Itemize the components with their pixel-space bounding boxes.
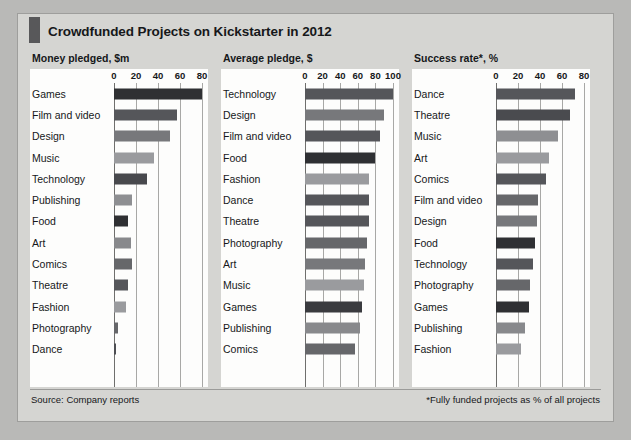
chart-row: Publishing <box>412 317 592 338</box>
category-label: Film and video <box>414 194 482 206</box>
category-label: Dance <box>32 343 62 355</box>
x-axis-tick-label: 80 <box>370 70 381 81</box>
chart-row: Dance <box>30 339 210 360</box>
category-label: Comics <box>223 343 258 355</box>
x-axis-tick-label: 80 <box>197 70 208 81</box>
chart-row: Technology <box>30 168 210 189</box>
category-label: Theatre <box>414 109 450 121</box>
category-label: Publishing <box>414 322 462 334</box>
category-label: Comics <box>414 173 449 185</box>
bar <box>305 322 360 333</box>
bar <box>114 131 170 142</box>
chart-row: Music <box>221 275 401 296</box>
category-label: Art <box>414 152 427 164</box>
chart-panels: Money pledged, $m 020406080GamesFilm and… <box>18 52 613 387</box>
x-axis-tick-label: 80 <box>579 70 590 81</box>
bar <box>305 173 369 184</box>
chart-row: Games <box>30 83 210 104</box>
x-axis-tick-label: 20 <box>317 70 328 81</box>
x-axis-tick-label: 0 <box>493 70 498 81</box>
bar <box>114 259 132 270</box>
category-label: Technology <box>32 173 85 185</box>
category-label: Comics <box>32 258 67 270</box>
bar <box>114 344 116 355</box>
chart-row: Comics <box>30 253 210 274</box>
category-label: Dance <box>414 88 444 100</box>
bar <box>114 280 128 291</box>
chart-row: Games <box>221 296 401 317</box>
bar <box>496 322 525 333</box>
source-note: Source: Company reports <box>31 394 139 405</box>
chart-row: Publishing <box>30 190 210 211</box>
bar <box>305 109 384 120</box>
category-label: Film and video <box>223 130 291 142</box>
chart-row: Comics <box>412 168 592 189</box>
category-label: Technology <box>223 88 276 100</box>
category-label: Film and video <box>32 109 100 121</box>
chart-row: Film and video <box>221 126 401 147</box>
bar <box>114 237 131 248</box>
chart-row: Theatre <box>30 275 210 296</box>
panel-title: Average pledge, $ <box>223 52 312 64</box>
chart-row: Music <box>30 147 210 168</box>
panel-title: Success rate*, % <box>414 52 498 64</box>
category-label: Games <box>223 301 257 313</box>
panel-success-rate: Success rate*, % 020406080DanceTheatreMu… <box>412 52 592 387</box>
bar <box>305 131 380 142</box>
x-axis-tick-label: 0 <box>111 70 116 81</box>
category-label: Design <box>223 109 256 121</box>
x-axis-tick-label: 20 <box>513 70 524 81</box>
chart-row: Technology <box>412 253 592 274</box>
bar <box>305 216 369 227</box>
bar <box>496 109 570 120</box>
bar <box>496 88 575 99</box>
category-label: Design <box>32 130 65 142</box>
bar <box>496 152 549 163</box>
x-axis-tick-label: 0 <box>302 70 307 81</box>
bar <box>114 173 147 184</box>
chart-row: Dance <box>412 83 592 104</box>
chart-row: Film and video <box>30 104 210 125</box>
panel-money-pledged: Money pledged, $m 020406080GamesFilm and… <box>30 52 210 387</box>
x-axis-tick-label: 60 <box>175 70 186 81</box>
category-label: Design <box>414 215 447 227</box>
chart-row: Music <box>412 126 592 147</box>
chart-row: Art <box>221 253 401 274</box>
category-label: Art <box>32 237 45 249</box>
bar <box>114 109 177 120</box>
category-label: Fashion <box>32 301 69 313</box>
bar <box>305 88 393 99</box>
page-title: Crowdfunded Projects on Kickstarter in 2… <box>48 24 332 39</box>
chart-row: Food <box>412 232 592 253</box>
bar <box>496 237 535 248</box>
category-label: Technology <box>414 258 467 270</box>
category-label: Dance <box>223 194 253 206</box>
chart-row: Design <box>221 104 401 125</box>
x-axis-tick-label: 100 <box>385 70 401 81</box>
bar <box>305 301 362 312</box>
figure-footer: Source: Company reports *Fully funded pr… <box>18 387 613 421</box>
bar <box>114 88 202 99</box>
category-label: Fashion <box>414 343 451 355</box>
chart-row: Food <box>30 211 210 232</box>
x-axis-tick-label: 60 <box>557 70 568 81</box>
chart-row: Photography <box>30 317 210 338</box>
figure-header: Crowdfunded Projects on Kickstarter in 2… <box>18 14 613 54</box>
chart-row: Comics <box>221 339 401 360</box>
bar <box>114 216 128 227</box>
chart-row: Design <box>412 211 592 232</box>
category-label: Art <box>223 258 236 270</box>
category-label: Theatre <box>32 279 68 291</box>
chart-figure: Crowdfunded Projects on Kickstarter in 2… <box>17 13 614 422</box>
plot-area: 020406080DanceTheatreMusicArtComicsFilm … <box>412 69 592 387</box>
chart-row: Technology <box>221 83 401 104</box>
bar <box>496 216 537 227</box>
x-axis-tick-label: 40 <box>535 70 546 81</box>
chart-row: Fashion <box>412 339 592 360</box>
category-label: Photography <box>414 279 474 291</box>
x-axis-tick-label: 20 <box>131 70 142 81</box>
bar <box>496 259 533 270</box>
x-axis-tick-label: 60 <box>353 70 364 81</box>
category-label: Photography <box>223 237 283 249</box>
bar <box>114 195 132 206</box>
